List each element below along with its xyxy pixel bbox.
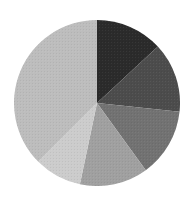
pie-slices [14,20,180,186]
pie-chart-canvas [0,0,196,202]
pie-chart [0,0,196,202]
